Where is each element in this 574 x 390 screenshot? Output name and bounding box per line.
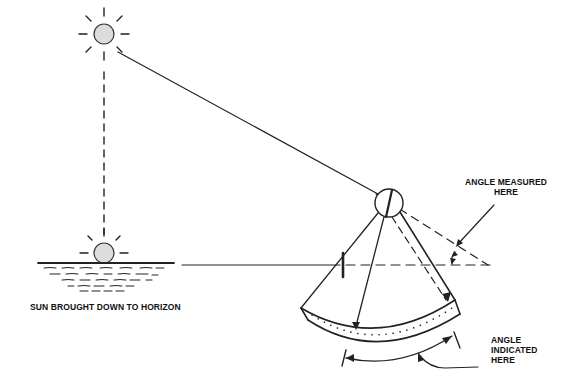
label-angle-indicated-line2: INDICATED: [491, 345, 538, 355]
label-angle-indicated: ANGLE INDICATED HERE: [491, 335, 538, 365]
label-angle-measured-line2: HERE: [461, 187, 551, 197]
graduated-arc: [301, 300, 460, 342]
index-arm-dashed: [392, 217, 446, 300]
label-angle-indicated-line1: ANGLE: [491, 335, 538, 345]
frame-left-arm: [301, 213, 378, 308]
water-waves: [44, 268, 164, 292]
label-sun-horizon: SUN BROUGHT DOWN TO HORIZON: [30, 302, 181, 312]
frame-right-arm: [400, 212, 455, 300]
index-mirror: [375, 189, 403, 217]
label-angle-measured-line1: ANGLE MEASURED: [461, 177, 551, 187]
label-angle-indicated-line3: HERE: [491, 355, 538, 365]
sun-ray-line: [118, 52, 378, 194]
sun-on-horizon-icon: [80, 229, 128, 263]
label-sun-horizon-text: SUN BROUGHT DOWN TO HORIZON: [30, 302, 181, 312]
label-angle-measured: ANGLE MEASURED HERE: [461, 177, 551, 197]
sun-in-sky-icon: [79, 8, 129, 60]
index-arm-left: [356, 217, 384, 326]
